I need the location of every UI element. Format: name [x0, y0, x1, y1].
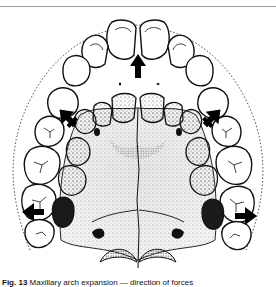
figure-caption: Fig. 13 Maxillary arch expansion — direc… [2, 279, 274, 287]
caption-label: Fig. 13 [2, 279, 27, 287]
arrow-up-icon [130, 54, 146, 78]
caption-text: Maxillary arch expansion — direction of … [30, 279, 194, 287]
maxillary-arch-illustration [0, 0, 276, 270]
